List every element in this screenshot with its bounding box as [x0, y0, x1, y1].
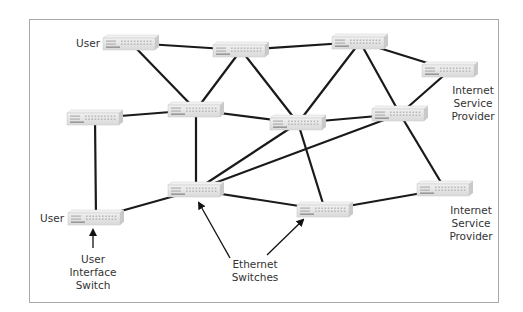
- label-line: Ethernet: [220, 258, 290, 271]
- ethernet-switch-icon: [103, 35, 159, 50]
- arrows-group: [93, 203, 303, 258]
- label-line: Interface: [63, 266, 123, 279]
- ethernet-switch-icon: [297, 202, 353, 217]
- label-ethernet-switches: EthernetSwitches: [220, 258, 290, 284]
- label-line: Provider: [441, 230, 501, 243]
- link-s8-s12: [400, 114, 445, 189]
- ethernet-switch-icon: [67, 110, 123, 125]
- label-line: Switches: [220, 271, 290, 284]
- ethernet-switch-icon: [422, 62, 478, 77]
- ethernet-switch-icon: [372, 106, 428, 121]
- link-s9-s7: [196, 123, 298, 190]
- link-s2-s6: [196, 50, 241, 110]
- ethernet-switch-icon: [332, 34, 388, 49]
- ethernet-switch-icon: [213, 42, 269, 57]
- label-line: User: [36, 212, 64, 225]
- arrow-eth-left-icon: [199, 203, 230, 258]
- label-user-top: User: [72, 37, 100, 50]
- label-user-interface-switch: UserInterfaceSwitch: [63, 253, 123, 292]
- link-s2-s7: [241, 50, 298, 123]
- switches-group: [67, 34, 478, 225]
- label-line: Switch: [63, 279, 123, 292]
- link-s1-s6: [131, 43, 196, 110]
- ethernet-switch-icon: [270, 115, 326, 130]
- label-line: Service: [443, 97, 503, 110]
- ethernet-switch-icon: [168, 182, 224, 197]
- label-line: Service: [441, 217, 501, 230]
- label-line: User: [72, 37, 100, 50]
- ethernet-switch-icon: [68, 210, 124, 225]
- label-user-bottom: User: [36, 212, 64, 225]
- network-diagram: UserUserInternetServiceProviderInternetS…: [0, 0, 523, 312]
- label-line: Internet: [441, 204, 501, 217]
- ethernet-switch-icon: [168, 102, 224, 117]
- link-s3-s7: [298, 42, 360, 123]
- link-s7-s11: [298, 123, 325, 210]
- label-isp-top: InternetServiceProvider: [443, 84, 503, 123]
- arrow-eth-right-icon: [267, 220, 303, 255]
- label-isp-bottom: InternetServiceProvider: [441, 204, 501, 243]
- label-line: User: [63, 253, 123, 266]
- link-s5-s10: [95, 118, 96, 218]
- label-line: Internet: [443, 84, 503, 97]
- label-line: Provider: [443, 110, 503, 123]
- ethernet-switch-icon: [417, 181, 473, 196]
